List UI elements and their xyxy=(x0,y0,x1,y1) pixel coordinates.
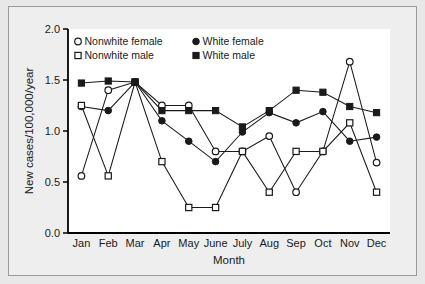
data-point xyxy=(78,173,85,180)
data-point xyxy=(346,58,353,65)
legend-marker-icon xyxy=(193,52,199,58)
data-point xyxy=(293,120,300,127)
legend-item: Nonwhite female xyxy=(75,35,163,47)
data-point xyxy=(159,159,165,165)
legend-marker-icon xyxy=(75,38,82,45)
data-point xyxy=(159,118,166,125)
figure-container: 0.00.51.01.52.0JanFebMarAprMayJuneJulyAu… xyxy=(0,0,425,284)
x-axis-tick-label: Jan xyxy=(73,237,91,249)
data-point xyxy=(320,89,326,95)
x-axis-tick-label: Dec xyxy=(367,237,387,249)
data-point xyxy=(293,189,300,196)
legend-marker-icon xyxy=(193,38,200,45)
y-axis-tick-label: 1.0 xyxy=(45,125,60,137)
legend-item: White male xyxy=(193,49,255,61)
line-chart: 0.00.51.01.52.0JanFebMarAprMayJuneJulyAu… xyxy=(0,0,425,284)
data-point xyxy=(373,189,379,195)
x-axis-tick-label: Feb xyxy=(99,237,118,249)
legend-item-label: Nonwhite female xyxy=(85,35,163,47)
data-point xyxy=(159,108,165,114)
data-point xyxy=(239,148,245,154)
x-axis-tick-label: Sep xyxy=(286,237,306,249)
data-point xyxy=(239,124,245,130)
data-point xyxy=(186,108,192,114)
x-axis-tick-label: July xyxy=(233,237,253,249)
legend-item-label: White male xyxy=(203,49,256,61)
x-axis-tick-label: May xyxy=(178,237,199,249)
data-point xyxy=(347,103,353,109)
x-axis-tick-label: Nov xyxy=(340,237,360,249)
legend-item-label: Nonwhite male xyxy=(85,49,155,61)
legend-item-label: White female xyxy=(203,35,264,47)
data-point xyxy=(320,148,326,154)
data-point xyxy=(293,87,299,93)
data-point xyxy=(105,78,111,84)
data-point xyxy=(186,204,192,210)
data-point xyxy=(373,159,380,166)
legend-marker-icon xyxy=(75,52,81,58)
y-axis-title: New cases/100,000/year xyxy=(23,68,35,195)
data-point xyxy=(266,108,272,114)
x-axis-tick-label: June xyxy=(204,237,228,249)
x-axis-title: Month xyxy=(213,254,245,266)
data-point xyxy=(105,87,112,94)
data-point xyxy=(320,108,327,115)
data-point xyxy=(347,120,353,126)
data-point xyxy=(78,102,84,108)
data-point xyxy=(346,138,353,145)
data-point xyxy=(78,80,84,86)
data-point xyxy=(212,204,218,210)
data-point xyxy=(132,79,138,85)
data-point xyxy=(373,110,379,116)
y-axis-tick-label: 2.0 xyxy=(45,23,60,35)
data-point xyxy=(293,148,299,154)
x-axis-tick-label: Aug xyxy=(259,237,279,249)
legend-item: White female xyxy=(193,35,264,47)
y-axis-tick-label: 0.0 xyxy=(45,227,60,239)
x-axis-tick-label: Oct xyxy=(314,237,331,249)
data-point xyxy=(212,108,218,114)
x-axis-tick-label: Apr xyxy=(153,237,170,249)
data-point xyxy=(105,107,112,114)
legend-item: Nonwhite male xyxy=(75,49,154,61)
y-axis-tick-label: 0.5 xyxy=(45,176,60,188)
data-point xyxy=(212,158,219,165)
data-point xyxy=(373,134,380,141)
y-axis-tick-label: 1.5 xyxy=(45,74,60,86)
x-axis-tick-label: Mar xyxy=(126,237,145,249)
data-point xyxy=(266,133,273,140)
data-point xyxy=(105,173,111,179)
data-point xyxy=(266,189,272,195)
data-point xyxy=(212,148,219,155)
data-point xyxy=(185,138,192,145)
